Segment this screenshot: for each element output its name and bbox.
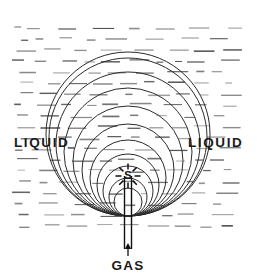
- bubble-formation-figure: S LIQUID LIQUID GAS: [0, 0, 257, 277]
- burst-ray: [119, 181, 123, 185]
- bubble-outline: [64, 88, 192, 216]
- burst-ray: [119, 167, 123, 171]
- label-liquid-left: LIQUID: [14, 135, 69, 150]
- center-mark-glyph: S: [124, 169, 131, 181]
- label-liquid-right: LIQUID: [188, 135, 243, 150]
- bubble-outline: [114, 188, 142, 216]
- figure-canvas: S LIQUID LIQUID GAS: [0, 0, 257, 277]
- burst-ray: [133, 167, 137, 171]
- bubble-outlines: [46, 52, 210, 216]
- arrow-head: [125, 243, 131, 249]
- gas-flow-arrow-icon: [125, 243, 131, 256]
- label-gas: GAS: [112, 258, 145, 273]
